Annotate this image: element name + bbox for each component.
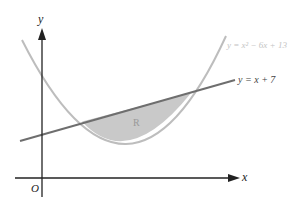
y-axis-label: y — [38, 12, 43, 27]
x-axis-arrow-icon — [228, 174, 240, 182]
line-equation: y = x + 7 — [238, 74, 275, 85]
y-axis-arrow-icon — [38, 28, 46, 40]
origin-label: O — [31, 182, 39, 194]
x-axis-label: x — [242, 170, 247, 185]
parabola-equation: y = x² − 6x + 13 — [227, 40, 287, 50]
region-label: R — [133, 117, 140, 128]
graph-canvas — [0, 0, 300, 209]
